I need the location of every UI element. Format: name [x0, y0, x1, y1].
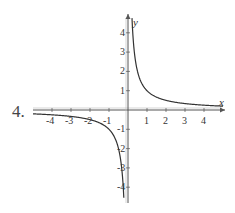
y-tick-label: -1: [117, 124, 125, 134]
y-axis-arrow-icon: [126, 14, 131, 19]
y-tick-label: 2: [120, 66, 125, 76]
x-axis-arrow-icon: [220, 108, 225, 113]
x-axis-label: x: [219, 97, 224, 107]
y-tick-label: 1: [120, 86, 125, 96]
problem-number: 4.: [12, 103, 25, 120]
y-tick-label: -3: [117, 163, 125, 173]
x-tick-label: -1: [103, 116, 111, 126]
y-tick-label: -2: [117, 144, 125, 154]
y-axis-label: y: [133, 17, 138, 27]
x-tick-label: 4: [201, 116, 206, 126]
x-tick-label: 1: [144, 116, 149, 126]
axes: [33, 14, 225, 203]
x-tick-label: -3: [65, 116, 73, 126]
y-tick-label: 3: [120, 47, 125, 57]
y-tick-label: 4: [120, 28, 125, 38]
x-tick-label: -2: [84, 116, 92, 126]
curve-positive-branch: [132, 18, 223, 106]
x-tick-label: -4: [46, 116, 54, 126]
x-tick-label: 2: [163, 116, 168, 126]
curve-negative-branch: [33, 114, 124, 198]
y-tick-label: -4: [117, 182, 125, 192]
x-tick-label: 3: [182, 116, 187, 126]
